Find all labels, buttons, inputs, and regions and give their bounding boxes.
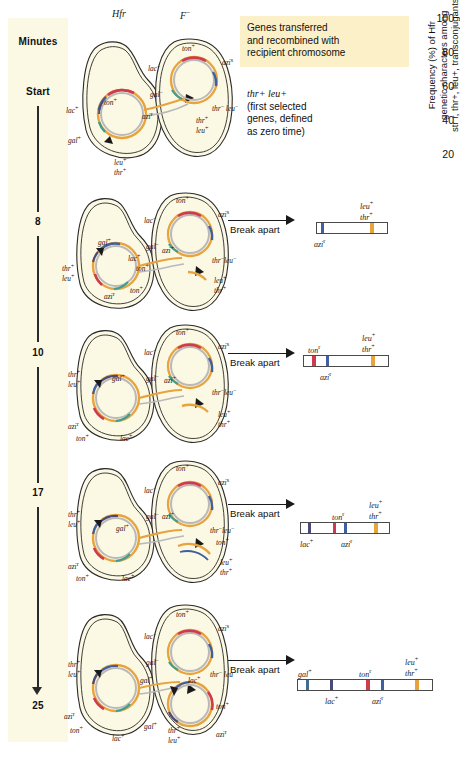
gene-label-gal-hfr-10: gal+ [112, 372, 125, 384]
break-apart-25min: Break apart [228, 652, 303, 678]
gene-label-gal-hfr: gal+ [68, 134, 81, 146]
timeline-arrow-icon [32, 687, 42, 695]
gene-label-ton-r-25: ton+ [216, 700, 229, 712]
gene-label-lac-hfr: lac+ [66, 104, 78, 116]
stage-start: ton+ azir lac+ gal+ leu+ thr+ ton+ azis … [70, 18, 260, 168]
callout-line1: Genes transferred [247, 22, 402, 35]
break-arrow-head-icon [286, 215, 295, 225]
gene-label-ton2-f-17: ton+ [216, 536, 229, 548]
note-line2: genes, defined [247, 113, 397, 126]
stage-8min: gal+ lac+ ton+ azi+ azir thr+ leu+ ton+ … [70, 186, 260, 314]
gene-label-thr-t-17: thr+ [220, 566, 232, 578]
axis-tick-20: 20 [428, 148, 454, 160]
bar-label-thr-8: thr+ [360, 209, 373, 222]
break-arrow-head-icon [286, 348, 295, 358]
gene-label-ton-f-8: ton+ [176, 194, 189, 206]
bar-label-thr-10: thr+ [362, 341, 375, 354]
bar-label-azi-8: azir [314, 236, 325, 249]
band-ton-25 [366, 680, 369, 690]
gene-label-lac-f-10: lac− [144, 346, 156, 358]
bar-label-gal-25: gal+ [298, 666, 312, 679]
band-lac-17 [308, 523, 311, 533]
gene-label-azi2-hfr-25: azir [64, 710, 75, 722]
band-leuthr-8 [370, 223, 374, 233]
gene-label-azi2-hfr-17: azir [68, 560, 79, 572]
gene-label-thrleu-f-10: thr−leu− [212, 386, 236, 398]
band-leuthr-10 [371, 356, 375, 366]
bar-label-azi-17: azir [341, 536, 352, 549]
axis-tick-80: 80 [428, 46, 454, 58]
gene-label-lac-hfr-25: lac+ [112, 732, 124, 744]
band-leuthr-25 [415, 680, 419, 690]
band-lac-25 [330, 680, 333, 690]
axis-tick-100: 100 [428, 12, 454, 24]
band-leuthr-17 [374, 523, 378, 533]
bar-label-lac-17: lac+ [300, 536, 313, 549]
axis-tick-60: 60 [428, 80, 454, 92]
callout-line2: and recombined with [247, 35, 402, 48]
gene-label-gal-hfr-17: gal+ [116, 522, 129, 534]
band-azi-17 [344, 523, 347, 533]
gene-label-lac-f-25: lac− [144, 630, 156, 642]
gene-label-ton-hfr-25: ton+ [70, 724, 83, 736]
gene-label-azi-f-25: azis [218, 622, 229, 634]
break-arrow-head-icon [286, 655, 295, 665]
note-line1: (first selected [247, 101, 397, 114]
gene-label-leu-hfr-17: leu+ [68, 518, 80, 530]
break-apart-label-8: Break apart [230, 224, 280, 235]
gene-label-azi2-hfr-8: azir [104, 290, 115, 302]
gene-label-ton-f: ton+ [182, 42, 195, 54]
gene-label-lac-hfr-17: lac+ [122, 572, 134, 584]
timeline-mark-start: Start [8, 86, 68, 97]
timeline-header: Minutes [8, 36, 68, 47]
gene-label-gal-hfr-25: gal+ [140, 674, 153, 686]
bar-label-ton-25: tonr [359, 666, 371, 679]
gene-label-thrleu-f-17: thr−leu− [210, 524, 234, 536]
break-arrow-line [228, 220, 288, 221]
gene-label-azi-hfr-10: azi+ [164, 374, 176, 386]
timeline-mark-17: 17 [8, 487, 68, 498]
gene-label-thr-t-8: thr+ [214, 284, 226, 296]
gene-label-ton-f-17: ton+ [176, 462, 189, 474]
selected-genes-note: thr+ leu+ (first selected genes, defined… [247, 88, 397, 138]
callout-line3: recipient chromosome [247, 47, 402, 60]
note-genes: thr+ leu+ [247, 88, 397, 101]
break-arrow-line [228, 660, 288, 661]
gene-label-gal-f-10: gal− [146, 372, 159, 384]
timeline-segment-3 [37, 367, 39, 483]
gene-label-gal-f-17: gal− [146, 510, 159, 522]
gene-label-lac-f-r-25: lac+ [188, 674, 200, 686]
note-line3: as zero time) [247, 126, 397, 139]
break-apart-label-10: Break apart [230, 357, 280, 368]
gene-label-thr-hfr: thr+ [114, 166, 126, 178]
bar-label-ton-10: tonr [308, 342, 320, 355]
break-arrow-head-icon [286, 499, 295, 509]
gene-label-ton-hfr-17: ton+ [76, 572, 89, 584]
band-gal-25 [306, 680, 309, 690]
gene-label-azi-f: azis [222, 56, 233, 68]
gene-label-leu-r-25: leu+ [168, 734, 180, 746]
chromosome-bar-17min [300, 522, 390, 534]
gene-label-azi-hfr: azir [142, 110, 153, 122]
bar-label-lac-25: lac+ [325, 693, 338, 706]
bar-label-thr-25: thr+ [405, 665, 418, 678]
gene-label-gal2-25: gal+ [144, 720, 157, 732]
bar-label-azi-10: azir [320, 369, 331, 382]
timeline-mark-10: 10 [8, 347, 68, 358]
band-azi-25 [381, 680, 384, 690]
gene-label-lac-f-8: lac− [144, 214, 156, 226]
gene-label-azi-f-17: azis [218, 476, 229, 488]
axis-tick-40: 40 [428, 114, 454, 126]
band-azi-10 [326, 356, 329, 366]
gene-label-leu-hfr-25: leu+ [68, 668, 80, 680]
gene-label-lac-f-17: lac− [144, 484, 156, 496]
break-apart-10min: Break apart [228, 345, 303, 371]
timeline-mark-25: 25 [8, 700, 68, 711]
timeline-segment-4 [37, 507, 39, 689]
break-apart-label-17: Break apart [230, 508, 280, 519]
gene-label-azi2-hfr-10: azir [68, 420, 79, 432]
gene-label-thrleu-f-8: thr−leu− [212, 254, 236, 266]
gene-label-gal-hfr-8: gal+ [98, 236, 111, 248]
gene-label-leu-hfr-8: leu+ [62, 272, 74, 284]
band-azi-8 [321, 223, 324, 233]
